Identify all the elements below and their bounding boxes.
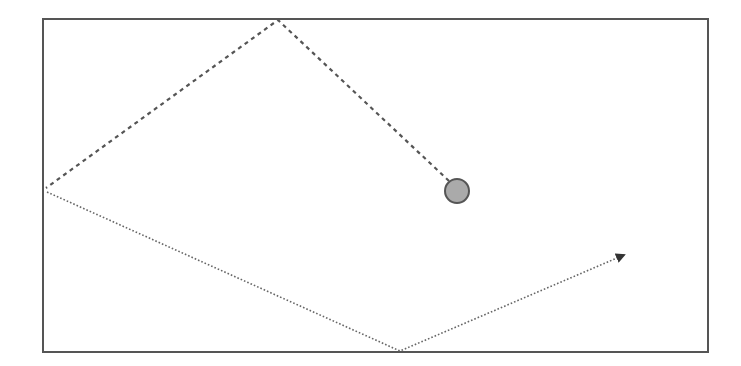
dotted-trajectory <box>47 192 624 351</box>
bounce-diagram <box>0 0 741 366</box>
ball <box>445 179 469 203</box>
boundary-box <box>43 19 708 352</box>
dashed-trajectory <box>46 20 449 188</box>
